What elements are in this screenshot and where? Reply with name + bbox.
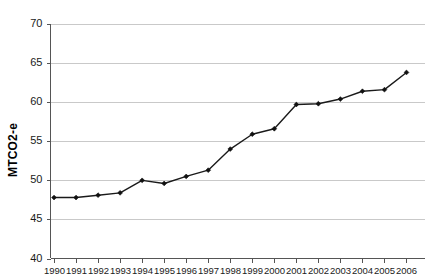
x-axis-tick-label: 1992 [88, 265, 109, 276]
x-axis-tick-label: 2000 [264, 265, 285, 276]
x-axis-tick-label: 1997 [198, 265, 219, 276]
x-axis-tick-label: 2001 [286, 265, 307, 276]
y-axis-tick-label: 65 [30, 56, 42, 68]
y-axis-tick-label: 70 [30, 17, 42, 29]
x-axis-tick-label: 1999 [242, 265, 263, 276]
x-axis-tick-label: 1993 [110, 265, 131, 276]
x-axis-tick-label: 2002 [308, 265, 329, 276]
x-axis-tick-label: 2004 [352, 265, 373, 276]
y-axis-tick-label: 45 [30, 212, 42, 224]
x-axis-tick-label: 1991 [66, 265, 87, 276]
x-axis-tick-label: 1990 [44, 265, 65, 276]
x-axis-tick-label: 2006 [396, 265, 417, 276]
chart-background [0, 0, 433, 279]
y-axis-tick-label: 55 [30, 134, 42, 146]
x-axis-tick-label: 1995 [154, 265, 175, 276]
x-axis-tick-labels: 1990199119921993199419951996199719981999… [44, 265, 417, 276]
line-chart: 40455055606570 1990199119921993199419951… [0, 0, 433, 279]
y-axis-title: MTCO2-e [6, 123, 20, 177]
y-axis-tick-label: 60 [30, 95, 42, 107]
chart-container: 40455055606570 1990199119921993199419951… [0, 0, 433, 279]
y-axis-tick-label: 50 [30, 173, 42, 185]
x-axis-tick-label: 2003 [330, 265, 351, 276]
x-axis-tick-label: 1998 [220, 265, 241, 276]
x-axis-tick-label: 1994 [132, 265, 153, 276]
x-axis-tick-label: 2005 [374, 265, 395, 276]
y-axis-tick-label: 40 [30, 252, 42, 264]
x-axis-tick-label: 1996 [176, 265, 197, 276]
